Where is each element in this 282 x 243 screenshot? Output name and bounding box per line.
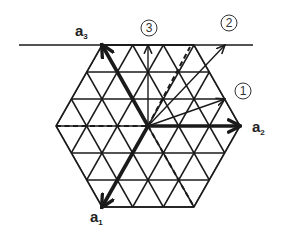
lattice-diag-line: [0, 18, 25, 234]
lattice-diag-line: [0, 18, 25, 234]
basis-label-a2: a2: [252, 118, 265, 137]
basis-label-a1: a1: [90, 208, 103, 227]
hexagonal-lattice-diagram: a1a2a3123: [0, 0, 282, 243]
lattice-diag-line: [271, 18, 282, 234]
circled-number-3-text: 3: [146, 21, 153, 35]
lattice-diag-line: [0, 18, 56, 234]
lattice-diag-line: [240, 18, 282, 234]
lattice-diag-line: [271, 18, 282, 234]
basis-label-subscript: 2: [260, 128, 265, 137]
circled-number-2-text: 2: [226, 16, 233, 30]
basis-label-a3: a3: [75, 22, 88, 41]
basis-label-subscript: 1: [98, 218, 103, 227]
circled-number-1-text: 1: [240, 84, 247, 98]
lattice-diag-line: [240, 18, 282, 234]
basis-label-subscript: 3: [83, 32, 88, 41]
lattice-diag-line: [0, 18, 56, 234]
